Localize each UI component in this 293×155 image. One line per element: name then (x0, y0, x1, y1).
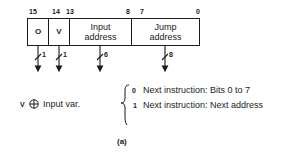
legend-v-symbol: V (20, 101, 25, 108)
width-label-v: 1 (63, 51, 67, 58)
legend-value-0: 0 (132, 87, 136, 94)
arrows-layer (0, 0, 293, 155)
legend-input-var: Input var. (43, 99, 80, 109)
width-label-jump: 8 (169, 51, 173, 58)
legend-text-1: Next instruction: Next address (143, 100, 263, 110)
legend-text-0: Next instruction: Bits 0 to 7 (143, 85, 250, 95)
width-label-o: 1 (42, 51, 46, 58)
figure-caption: (a) (117, 137, 127, 146)
legend-value-1: 1 (133, 102, 137, 109)
width-label-input: 6 (104, 51, 108, 58)
